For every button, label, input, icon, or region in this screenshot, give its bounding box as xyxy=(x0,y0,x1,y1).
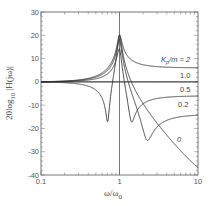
x-tick-label: 10 xyxy=(194,177,202,186)
x-tick-label: 1 xyxy=(117,177,121,186)
y-tick-label: 30 xyxy=(31,8,39,17)
y-axis-label: 20log10 |H(jω)| xyxy=(4,66,16,120)
curve-label: Kp/m = 2 xyxy=(161,55,191,65)
y-tick-label: 10 xyxy=(31,54,39,63)
y-tick-label: -10 xyxy=(28,101,39,110)
frequency-response-chart: 3020100-10-20-30-400.1110 Kp/m = 21.00.5… xyxy=(0,0,210,206)
curve-label: 1.0 xyxy=(180,71,190,80)
curve-label: 0.5 xyxy=(180,85,190,94)
y-tick-label: -30 xyxy=(28,147,39,156)
x-tick-label: 0.1 xyxy=(36,177,46,186)
x-axis-label: ω/ω0 xyxy=(104,188,122,201)
y-tick-label: 20 xyxy=(31,31,39,40)
curve-label: 0.2 xyxy=(178,100,188,109)
y-tick-label: 0 xyxy=(35,77,39,86)
curve-labels: Kp/m = 21.00.50.20 xyxy=(161,55,191,144)
curve-label: 0 xyxy=(177,135,182,144)
y-tick-label: -20 xyxy=(28,124,39,133)
